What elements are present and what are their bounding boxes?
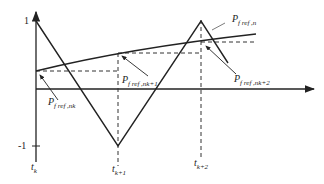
label-pref-nk: Pf ref ,nk — [48, 97, 75, 110]
pointer-n — [212, 23, 225, 30]
pointer-nk1 — [122, 56, 148, 76]
label-pref-n: Pf ref ,n — [232, 14, 256, 27]
x-tick-label-tk1: tk+1 — [112, 164, 126, 177]
x-tick-label-tk2: tk+2 — [194, 158, 208, 171]
label-pref-nk1: Pf ref ,nk+1 — [122, 75, 158, 88]
y-tick-label-top: 1 — [24, 16, 29, 26]
pointer-nk2 — [206, 46, 236, 74]
label-pref-nk2: Pf ref ,nk+2 — [234, 74, 270, 87]
y-tick-label-bottom: -1 — [18, 141, 26, 151]
waveform-diagram — [0, 0, 324, 184]
x-tick-label-tk: tk — [31, 162, 37, 175]
